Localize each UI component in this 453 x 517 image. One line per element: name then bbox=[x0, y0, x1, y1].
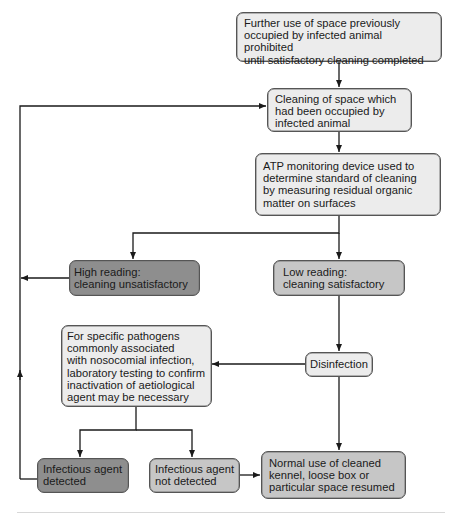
edge-lab-not-detected bbox=[136, 430, 192, 457]
node-atp-monitoring: ATP monitoring device used to determine … bbox=[255, 153, 441, 216]
node-cleaning: Cleaning of space which had been occupie… bbox=[267, 88, 412, 132]
node-normal-use: Normal use of cleaned kennel, loose box … bbox=[261, 451, 406, 499]
edge-lab-branch bbox=[80, 406, 136, 457]
node-low-reading: Low reading: cleaning satisfactory bbox=[273, 260, 405, 296]
node-disinfection: Disinfection bbox=[305, 352, 373, 377]
node-high-reading: High reading: cleaning unsatisfactory bbox=[69, 260, 200, 296]
node-agent-detected: Infectious agent detected bbox=[37, 458, 129, 493]
flowchart: Further use of space previously occupied… bbox=[0, 0, 453, 517]
bottom-divider bbox=[17, 512, 445, 513]
node-agent-not-detected: Infectious agent not detected bbox=[149, 458, 240, 493]
node-lab-testing: For specific pathogens commonly associat… bbox=[61, 325, 212, 407]
edge-atp-branch bbox=[133, 216, 339, 259]
connector-lines bbox=[0, 0, 453, 517]
node-prohibited: Further use of space previously occupied… bbox=[236, 12, 442, 62]
